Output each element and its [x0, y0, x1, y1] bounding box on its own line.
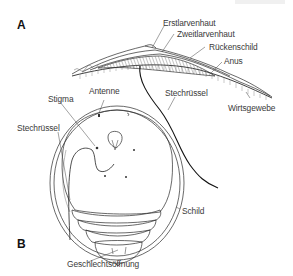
- label-stigma: Stigma: [48, 95, 73, 103]
- label-shield: Schild: [182, 207, 204, 215]
- label-genital-opening: Geschlechtsöffnung: [67, 260, 139, 268]
- panel-a-label: A: [17, 19, 26, 31]
- panel-b-label: B: [17, 238, 26, 250]
- label-host-tissue: Wirtsgewebe: [228, 104, 275, 112]
- panel-a-drawing: [72, 45, 272, 188]
- scale-insect-diagram: A B Erstlarvenhaut Zweitlarvenhaut Rücke…: [0, 0, 293, 276]
- label-proboscis-b: Stechrüssel: [17, 124, 60, 132]
- label-first-larval-skin: Erstlarvenhaut: [163, 19, 216, 27]
- label-dorsal-shield: Rückenschild: [209, 43, 258, 51]
- label-antenna: Antenne: [89, 87, 120, 95]
- label-second-larval-skin: Zweitlarvenhaut: [177, 30, 235, 38]
- label-anus: Anus: [224, 57, 243, 65]
- label-proboscis-a: Stechrüssel: [165, 89, 208, 97]
- panel-b-drawing: [50, 106, 184, 266]
